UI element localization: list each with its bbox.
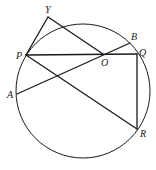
label-A: A xyxy=(6,89,14,100)
label-R: R xyxy=(139,128,146,139)
segment-YO xyxy=(48,17,103,54)
geometry-diagram: Y P O B Q A R xyxy=(0,0,156,170)
label-Q: Q xyxy=(139,47,147,58)
circle xyxy=(16,24,150,158)
label-O: O xyxy=(101,57,108,68)
label-B: B xyxy=(131,31,137,42)
segment-PR xyxy=(26,55,137,129)
label-Y: Y xyxy=(45,4,52,15)
label-P: P xyxy=(15,50,22,61)
segment-PQ xyxy=(26,54,137,55)
